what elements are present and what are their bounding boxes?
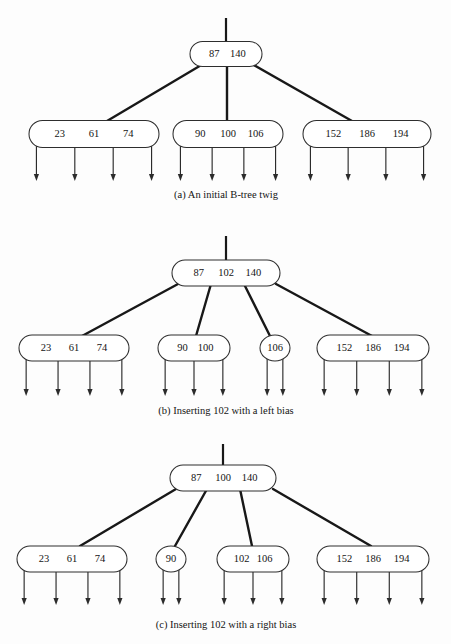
node-key-label: 61 <box>69 342 80 353</box>
btree-figure: 8714023617490100106152186194(a) An initi… <box>0 0 451 644</box>
panel-caption-c: (c) Inserting 102 with a right bias <box>156 619 297 631</box>
child-leaf-106: 106 <box>260 335 290 396</box>
node-key-label: 102 <box>218 267 234 278</box>
node-key-label: 102 <box>234 553 250 564</box>
node-key-label: 100 <box>215 472 231 483</box>
parent-child-link <box>107 64 203 121</box>
parent-child-link <box>273 489 371 546</box>
parent-child-link <box>82 284 178 336</box>
child-leaf-152-186-194: 152186194 <box>317 546 429 605</box>
parent-child-link <box>80 489 176 546</box>
node-key-label: 194 <box>393 128 410 139</box>
btree-diagram-canvas: 8714023617490100106152186194(a) An initi… <box>0 0 451 644</box>
node-key-label: 194 <box>394 553 411 564</box>
node-key-label: 90 <box>195 128 206 139</box>
child-leaf-90-100-106: 90100106 <box>173 121 283 182</box>
node-key-label: 90 <box>166 553 177 564</box>
child-leaf-152-186-194: 152186194 <box>303 121 431 182</box>
node-key-label: 152 <box>325 128 341 139</box>
node-key-label: 106 <box>248 128 264 139</box>
child-leaf-90: 90 <box>156 546 186 605</box>
node-key-label: 100 <box>220 128 236 139</box>
parent-child-link <box>196 284 211 336</box>
node-key-label: 61 <box>89 128 100 139</box>
panel-caption-a: (a) An initial B-tree twig <box>174 189 279 201</box>
node-key-label: 140 <box>242 472 258 483</box>
parent-child-link <box>244 284 270 336</box>
node-key-label: 186 <box>365 342 381 353</box>
node-key-label: 74 <box>97 342 108 353</box>
parent-child-link <box>276 284 372 336</box>
node-outline <box>190 42 262 67</box>
child-leaf-152-186-194: 152186194 <box>317 335 429 396</box>
node-outline <box>217 546 289 572</box>
node-key-label: 194 <box>394 342 411 353</box>
child-leaf-23-61-74: 236174 <box>29 121 159 182</box>
btree-panel-b: 8710214023617490100106152186194(b) Inser… <box>19 236 429 417</box>
node-outline <box>158 335 230 361</box>
node-key-label: 140 <box>245 267 261 278</box>
btree-panel-c: 8710014023617490102106152186194(c) Inser… <box>17 444 429 631</box>
root-node-a: 87140 <box>190 42 262 67</box>
node-key-label: 74 <box>95 553 106 564</box>
child-leaf-23-61-74: 236174 <box>17 546 127 605</box>
child-leaf-23-61-74: 236174 <box>19 335 129 396</box>
child-leaf-102-106: 102106 <box>217 546 289 605</box>
node-key-label: 23 <box>39 553 50 564</box>
parent-child-link <box>252 64 352 121</box>
parent-child-link <box>240 489 252 546</box>
node-key-label: 106 <box>257 553 273 564</box>
node-key-label: 100 <box>198 342 214 353</box>
node-key-label: 23 <box>54 128 65 139</box>
node-key-label: 23 <box>41 342 52 353</box>
node-key-label: 61 <box>67 553 78 564</box>
child-leaf-90-100: 90100 <box>158 335 230 396</box>
parent-child-link <box>175 489 207 546</box>
node-key-label: 152 <box>336 553 352 564</box>
node-key-label: 90 <box>177 342 188 353</box>
btree-panel-a: 8714023617490100106152186194(a) An initi… <box>29 18 431 201</box>
node-key-label: 74 <box>123 128 134 139</box>
node-key-label: 186 <box>365 553 381 564</box>
node-key-label: 152 <box>336 342 352 353</box>
node-key-label: 87 <box>191 472 202 483</box>
root-node-b: 87102140 <box>172 260 280 286</box>
node-key-label: 87 <box>193 267 204 278</box>
node-key-label: 140 <box>230 48 246 59</box>
root-node-c: 87100140 <box>170 465 276 491</box>
node-key-label: 186 <box>359 128 375 139</box>
node-key-label: 87 <box>209 48 220 59</box>
node-key-label: 106 <box>267 342 283 353</box>
panel-caption-b: (b) Inserting 102 with a left bias <box>158 405 293 417</box>
